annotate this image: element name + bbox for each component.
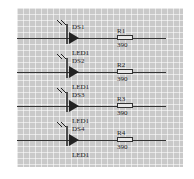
resistor-icon xyxy=(117,103,133,108)
led-row-1: DS1 LED1 R1 390 xyxy=(17,8,183,44)
wire xyxy=(133,106,166,107)
wire xyxy=(133,38,166,39)
led-row-4: DS4 LED1 R4 390 xyxy=(17,110,183,146)
wire xyxy=(133,140,166,141)
resistor-ref-label: R1 xyxy=(117,28,125,35)
led-ref-label: DS4 xyxy=(72,126,84,133)
led-ref-label: DS3 xyxy=(72,92,84,99)
led-row-3: DS3 LED1 R3 390 xyxy=(17,76,183,112)
led-ref-label: DS1 xyxy=(72,24,84,31)
resistor-icon xyxy=(117,69,133,74)
resistor-ref-label: R2 xyxy=(117,62,125,69)
resistor-ref-label: R3 xyxy=(117,96,125,103)
resistor-icon xyxy=(117,137,133,142)
schematic-canvas: DS1 LED1 R1 390 DS2 LED1 R2 390 DS3 LED1 xyxy=(17,8,183,167)
led-value-label: LED1 xyxy=(72,152,89,159)
wire xyxy=(133,72,166,73)
resistor-value-label: 390 xyxy=(117,144,128,151)
led-ref-label: DS2 xyxy=(72,58,84,65)
resistor-icon xyxy=(117,35,133,40)
resistor-ref-label: R4 xyxy=(117,130,125,137)
led-row-2: DS2 LED1 R2 390 xyxy=(17,42,183,78)
